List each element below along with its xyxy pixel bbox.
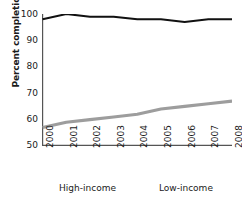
x-tick-label-2004: 2004 bbox=[140, 125, 149, 148]
legend-item-high-income[interactable]: High-income bbox=[29, 183, 116, 193]
x-tick-label-2006: 2006 bbox=[188, 125, 197, 148]
y-tick-label-80: 80 bbox=[16, 62, 38, 71]
x-tick-label-2000: 2000 bbox=[46, 125, 55, 148]
chart-legend: High-income Low-income bbox=[0, 183, 242, 193]
x-tick-label-2007: 2007 bbox=[211, 125, 220, 148]
x-tick-label-2002: 2002 bbox=[93, 125, 102, 148]
y-tick-label-60: 60 bbox=[16, 115, 38, 124]
y-tick-label-100: 100 bbox=[16, 10, 38, 19]
y-tick-label-50: 50 bbox=[16, 141, 38, 150]
x-tick-label-2008: 2008 bbox=[235, 125, 242, 148]
y-tick-label-90: 90 bbox=[16, 36, 38, 45]
y-tick-label-70: 70 bbox=[16, 89, 38, 98]
legend-label-low-income: Low-income bbox=[159, 183, 213, 193]
series-line-low-income bbox=[43, 101, 232, 127]
x-tick-label-2005: 2005 bbox=[164, 125, 173, 148]
y-axis-tick-labels: 100 90 80 70 60 50 bbox=[12, 0, 38, 203]
line-chart-figure: Percent completion 100 90 80 70 60 50 bbox=[0, 0, 242, 203]
series-line-high-income bbox=[43, 14, 232, 22]
legend-label-high-income: High-income bbox=[59, 183, 116, 193]
x-axis-tick-labels: 2000 2001 2002 2003 2004 2005 2006 2007 … bbox=[42, 148, 232, 180]
x-tick-label-2001: 2001 bbox=[70, 125, 79, 148]
x-tick-label-2003: 2003 bbox=[117, 125, 126, 148]
legend-item-low-income[interactable]: Low-income bbox=[129, 183, 213, 193]
